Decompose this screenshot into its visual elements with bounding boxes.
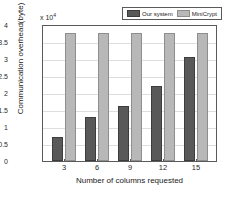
bar-minicrypt-3[interactable] [65,33,76,161]
bar-minicrypt-9[interactable] [131,33,142,161]
bar-group-12 [151,26,177,161]
bar-our-system-12[interactable] [151,86,162,161]
y-tick-label-4: 2 [0,90,8,97]
y-axis-exponent-label: x 104 [40,12,56,21]
x-tick-mark-4 [196,159,197,162]
legend-swatch-icon-minicrypt [177,10,190,17]
bar-group-3 [52,26,78,161]
bar-minicrypt-6[interactable] [98,33,109,161]
legend-label-our-system: Our system [142,11,173,17]
x-tick-mark-3 [163,159,164,162]
y-tick-label-6: 3 [0,56,8,63]
y-tick-label-0: 0 [0,158,8,165]
bar-minicrypt-12[interactable] [164,33,175,161]
x-tick-label-4: 15 [182,164,210,172]
legend-entry-minicrypt[interactable]: MiniCrypt [177,10,217,17]
y-tick-label-3: 1.5 [0,107,8,114]
y-tick-label-7: 3.5 [0,39,8,46]
bar-our-system-15[interactable] [184,57,195,161]
x-tick-mark-1 [97,159,98,162]
x-tick-label-0: 3 [50,164,78,172]
bar-our-system-6[interactable] [85,117,96,161]
legend-swatch-icon-our-system [127,10,140,17]
y-tick-label-1: 0.5 [0,141,8,148]
x-axis-title: Number of columns requested [42,176,217,185]
plot-area [42,25,217,162]
bar-our-system-9[interactable] [118,106,129,161]
bar-group-6 [85,26,111,161]
chart-legend: Our system MiniCrypt [122,7,222,20]
bar-our-system-3[interactable] [52,137,63,161]
y-axis-exponent-base: x 10 [40,14,53,21]
chart-figure: x 104 4 3.5 3 2.5 2 1.5 1 0.5 0 [0,0,229,197]
y-axis-title: Communication overhead(byte) [16,0,25,134]
legend-label-minicrypt: MiniCrypt [192,11,217,17]
x-tick-label-3: 12 [149,164,177,172]
x-tick-mark-2 [130,159,131,162]
y-tick-label-8: 4 [0,22,8,29]
x-tick-label-2: 9 [116,164,144,172]
y-tick-label-2: 1 [0,124,8,131]
x-tick-mark-0 [64,159,65,162]
bar-group-15 [184,26,210,161]
y-axis-exponent-power: 4 [53,12,56,18]
bar-group-9 [118,26,144,161]
bars-layer [43,26,216,161]
bar-minicrypt-15[interactable] [197,33,208,161]
y-tick-label-5: 2.5 [0,73,8,80]
legend-entry-our-system[interactable]: Our system [127,10,173,17]
x-tick-label-1: 6 [83,164,111,172]
